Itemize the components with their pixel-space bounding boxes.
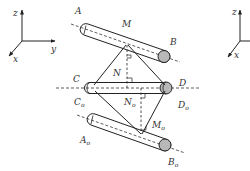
label-N: N: [112, 68, 122, 78]
label-C: C: [73, 74, 80, 84]
label-D0: Do: [177, 100, 189, 111]
z-axis-label: z: [231, 7, 237, 17]
x-axis-label: x: [234, 50, 239, 60]
cylinder-cap-B: [158, 51, 170, 63]
cylinder-cap-D: [160, 82, 172, 94]
link-MC: [94, 45, 126, 85]
label-A: A: [74, 6, 82, 16]
link-C0M0: [95, 91, 141, 134]
cylinder-AB: [71, 24, 180, 63]
label-D: D: [178, 78, 186, 88]
cylinder-A0B0: [77, 114, 185, 153]
y-axis-label: y: [50, 44, 57, 54]
coordinate-frame-right: z x: [228, 7, 250, 60]
x-axis-label: x: [13, 54, 18, 64]
cylinder-end-edge: [84, 26, 86, 35]
z-axis-label: z: [12, 8, 18, 18]
diagram-canvas: z y x z x: [0, 0, 250, 171]
label-B: B: [169, 37, 177, 47]
label-N0: No: [123, 97, 136, 108]
right-angle-mark-icon: [141, 94, 145, 99]
right-angle-mark-icon: [127, 78, 132, 83]
label-C0: Co: [74, 97, 85, 108]
link-MD: [128, 45, 165, 85]
right-angle-mark-icon: [127, 55, 131, 58]
cylinder-cap-B0: [159, 139, 171, 151]
label-B0: Bo: [167, 157, 179, 168]
label-M0: Mo: [151, 120, 165, 131]
label-M: M: [121, 19, 132, 29]
coordinate-frame-left: z y x: [9, 8, 57, 64]
label-A0: Ao: [79, 135, 91, 146]
